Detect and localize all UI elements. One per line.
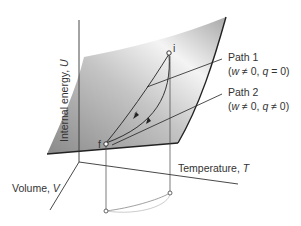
point-f-marker — [104, 142, 108, 146]
projection-f-marker — [104, 209, 108, 213]
path-2-condition: (w ≠ 0, q ≠ 0) — [228, 100, 289, 112]
temperature-axis-label: Temperature, T — [178, 162, 251, 174]
base-projection-curve — [106, 193, 170, 211]
point-i-marker — [167, 51, 171, 55]
projection-i-marker — [168, 191, 172, 195]
internal-energy-surface-diagram: i f Path 1 (w ≠ 0, q = 0) Path 2 (w ≠ 0,… — [0, 0, 301, 226]
path-1-condition: (w ≠ 0, q = 0) — [228, 65, 290, 77]
path-1-label: Path 1 — [228, 51, 259, 63]
volume-axis-label: Volume, V — [12, 182, 61, 194]
point-i-label: i — [173, 42, 175, 54]
path-2-label: Path 2 — [228, 86, 259, 98]
point-f-label: f — [98, 138, 101, 150]
internal-energy-axis-label: Internal energy, U — [58, 59, 70, 142]
